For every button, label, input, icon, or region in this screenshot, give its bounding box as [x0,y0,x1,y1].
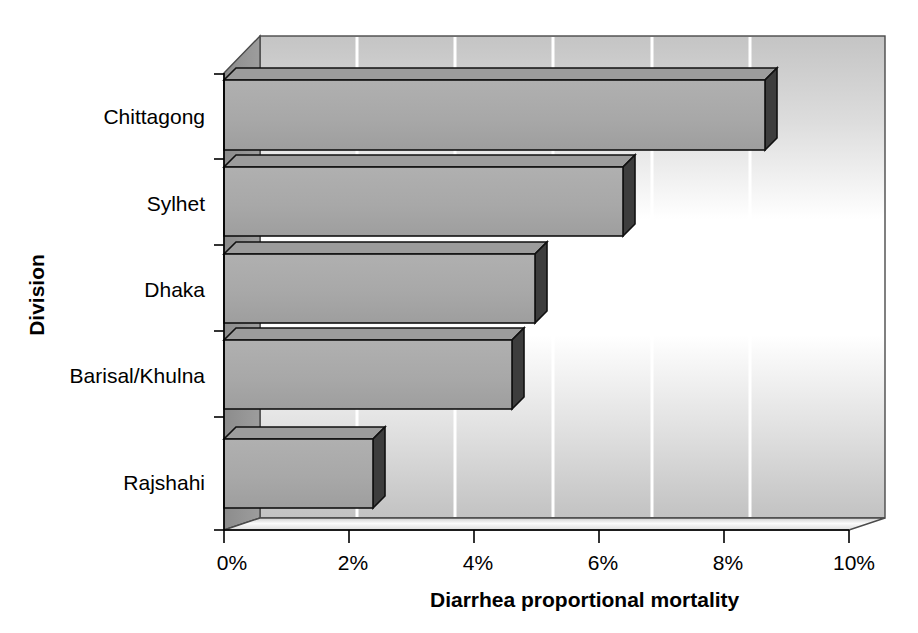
xtick-label-4: 8% [713,551,743,574]
cat-label-chittagong: Chittagong [103,105,205,128]
bar-front-face [224,167,623,236]
bar-top-face [224,328,524,340]
cat-label-sylhet: Sylhet [147,192,206,215]
y-axis-category-labels: Chittagong Sylhet Dhaka Barisal/Khulna R… [70,105,206,494]
bar-top-face [224,242,547,254]
bar-rajshahi[interactable] [224,427,385,508]
bar-front-face [224,254,535,323]
bar-front-face [224,439,373,508]
bar-side-face [765,68,777,150]
y-axis-title: Division [25,254,48,336]
bar-side-face [373,427,385,508]
bar-chart-3d: Chittagong Sylhet Dhaka Barisal/Khulna R… [0,0,918,633]
x-axis-ticks [224,530,849,543]
bar-side-face [623,155,635,236]
bar-front-face [224,80,765,150]
bar-chittagong[interactable] [224,68,777,150]
xtick-label-2: 4% [463,551,493,574]
bar-dhaka[interactable] [224,242,547,323]
bar-side-face [535,242,547,323]
xtick-label-0: 0% [217,551,247,574]
floor [224,518,885,530]
bar-side-face [512,328,524,409]
chart-container: Chittagong Sylhet Dhaka Barisal/Khulna R… [0,0,918,633]
bar-front-face [224,340,512,409]
xtick-label-1: 2% [338,551,368,574]
bar-top-face [224,427,385,439]
x-axis-title: Diarrhea proportional mortality [430,588,740,611]
bar-top-face [224,68,777,80]
bar-barisal-khulna[interactable] [224,328,524,409]
x-axis-tick-labels: 0% 2% 4% 6% 8% 10% [217,551,875,574]
bar-top-face [224,155,635,167]
cat-label-barisal-khulna: Barisal/Khulna [70,364,206,387]
y-axis-ticks [214,74,224,530]
xtick-label-3: 6% [588,551,618,574]
cat-label-rajshahi: Rajshahi [123,471,205,494]
xtick-label-5: 10% [833,551,875,574]
cat-label-dhaka: Dhaka [144,278,205,301]
bar-sylhet[interactable] [224,155,635,236]
